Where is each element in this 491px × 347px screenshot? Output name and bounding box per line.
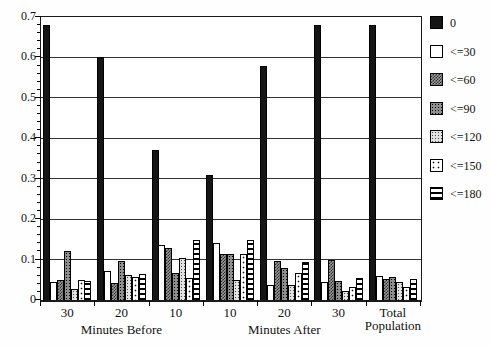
y-axis-minor-tick [37,291,40,292]
y-axis-minor-tick [37,162,40,163]
y-axis-tick-label: 0 [6,293,36,305]
legend-swatch-60 [430,73,443,86]
y-axis-major-tick [35,56,41,57]
y-axis-minor-tick [37,105,40,106]
bar-180-group1 [139,274,146,300]
y-axis-major-tick [35,178,41,179]
legend-label: <=180 [450,188,482,200]
bar-0-group0 [43,25,50,300]
bar-0-group4 [260,66,267,300]
y-axis-minor-tick [37,65,40,66]
bar-180-group3 [247,240,254,300]
y-axis-minor-tick [37,226,40,227]
y-axis-minor-tick [37,234,40,235]
y-axis-tick-label: 0.4 [6,131,36,143]
legend-label: <=30 [450,46,476,58]
bar-0-group6 [369,25,376,300]
y-axis-minor-tick [37,48,40,49]
y-axis-major-tick [35,299,41,300]
y-axis-minor-tick [37,186,40,187]
y-axis-minor-tick [37,24,40,25]
y-axis-minor-tick [37,145,40,146]
y-axis-minor-tick [37,275,40,276]
legend-swatch-90 [430,102,443,115]
y-axis-minor-tick [37,267,40,268]
y-axis-minor-tick [37,113,40,114]
y-axis-minor-tick [37,283,40,284]
bar-0-group1 [97,57,104,300]
y-axis-minor-tick [37,210,40,211]
x-axis-category-label: 20 [91,306,151,319]
y-axis-minor-tick [37,129,40,130]
y-axis-minor-tick [37,89,40,90]
y-axis-minor-tick [37,73,40,74]
bar-180-group0 [84,281,91,300]
bar-180-group2 [193,240,200,300]
y-axis-major-tick [35,259,41,260]
x-axis-group-label: Minutes After [229,323,339,336]
y-axis-minor-tick [37,194,40,195]
x-axis-category-label: 30 [309,306,369,319]
y-axis-minor-tick [37,153,40,154]
bar-0-group5 [314,25,321,300]
y-axis-tick-label: 0.7 [6,10,36,22]
y-axis-tick-label: 0.1 [6,253,36,265]
x-axis-category-label: 30 [37,306,97,319]
bar-180-group6 [410,279,417,300]
y-axis-minor-tick [37,121,40,122]
x-axis-category-label: 20 [254,306,314,319]
legend-swatch-180 [430,187,443,200]
x-axis-group-label: Minutes Before [66,323,176,336]
y-axis-major-tick [35,97,41,98]
bar-180-group4 [302,262,309,300]
legend-swatch-120 [430,130,443,143]
y-axis-minor-tick [37,32,40,33]
legend-swatch-0 [430,16,443,29]
legend-swatch-150 [430,159,443,172]
y-axis-tick-label: 0.2 [6,212,36,224]
x-axis-category-label: 10 [146,306,206,319]
y-axis-minor-tick [37,40,40,41]
legend-label: <=60 [450,74,476,86]
x-axis-category-label: Total Population [363,306,423,332]
y-axis-minor-tick [37,170,40,171]
legend-label: 0 [450,17,456,29]
legend-label: <=150 [450,160,482,172]
y-axis-minor-tick [37,250,40,251]
y-axis-major-tick [35,16,41,17]
y-axis-minor-tick [37,242,40,243]
legend-label: <=90 [450,103,476,115]
y-axis-minor-tick [37,202,40,203]
x-axis-category-label: 10 [200,306,260,319]
bar-180-group5 [356,278,363,300]
y-axis-major-tick [35,137,41,138]
bar-chart-figure: 0.70.60.50.40.30.20.10 302010102030Total… [0,0,491,347]
y-axis-major-tick [35,218,41,219]
y-axis-tick-label: 0.5 [6,91,36,103]
legend-swatch-30 [430,45,443,58]
y-axis-tick-label: 0.6 [6,50,36,62]
y-axis-minor-tick [37,81,40,82]
plot-area [40,16,422,302]
y-axis-tick-label: 0.3 [6,172,36,184]
legend-label: <=120 [450,131,482,143]
